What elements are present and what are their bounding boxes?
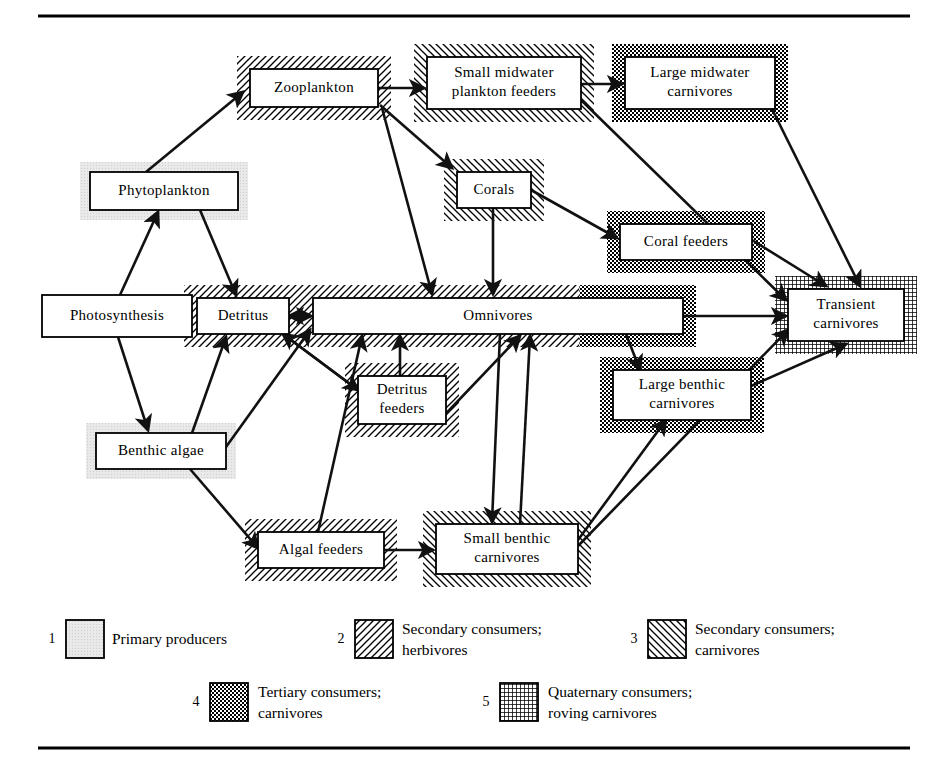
node-transient[interactable]: Transientcarnivores — [788, 289, 904, 341]
node-label-small_midwater-line1: Small midwater — [454, 64, 554, 80]
legend-item-primary: 1Primary producers — [49, 620, 227, 658]
edge-benthic_algae-to-algal_feeders — [190, 469, 258, 548]
edge-phytoplankton-to-detritus — [200, 210, 236, 295]
node-label-detritus_feeders-line1: Detritus — [377, 381, 428, 397]
legend: 1Primary producers2Secondary consumers;h… — [49, 620, 835, 721]
node-zooplankton[interactable]: Zooplankton — [250, 69, 378, 107]
legend-number-2: 2 — [338, 631, 345, 646]
edge-benthic_algae-to-detritus — [192, 337, 226, 433]
legend-label-tertiary-line2: carnivores — [258, 704, 323, 721]
node-label-phytoplankton: Phytoplankton — [118, 182, 210, 198]
node-label-benthic_algae: Benthic algae — [118, 442, 204, 458]
node-omnivores[interactable]: Omnivores — [313, 298, 683, 334]
legend-label-primary: Primary producers — [112, 630, 227, 647]
legend-label-secondary_h-line2: herbivores — [402, 641, 467, 658]
node-large_midwater[interactable]: Large midwatercarnivores — [625, 57, 775, 109]
legend-label-quaternary-line1: Quaternary consumers; — [548, 683, 692, 700]
figure-canvas: PhotosynthesisPhytoplanktonBenthic algae… — [0, 0, 942, 777]
node-label-transient-line1: Transient — [817, 296, 876, 312]
edge-photosynthesis-to-benthic_algae — [118, 337, 148, 430]
node-label-corals: Corals — [474, 181, 515, 197]
food-web-diagram: PhotosynthesisPhytoplanktonBenthic algae… — [0, 0, 942, 777]
node-label-small_benthic-line2: carnivores — [474, 549, 539, 565]
node-small_midwater[interactable]: Small midwaterplankton feeders — [427, 57, 581, 109]
edge-small_benthic-to-omnivores — [520, 336, 530, 524]
node-detritus[interactable]: Detritus — [197, 298, 289, 334]
legend-number-1: 1 — [49, 631, 56, 646]
node-small_benthic[interactable]: Small benthiccarnivores — [436, 524, 578, 574]
legend-label-quaternary-line2: roving carnivores — [548, 704, 657, 721]
legend-swatch-secondary_c — [648, 620, 686, 658]
legend-label-tertiary-line1: Tertiary consumers; — [258, 683, 381, 700]
node-label-omnivores: Omnivores — [463, 307, 532, 323]
node-label-transient-line2: carnivores — [813, 315, 878, 331]
node-corals[interactable]: Corals — [457, 172, 531, 208]
node-label-small_midwater-line2: plankton feeders — [452, 83, 556, 99]
node-label-photosynthesis: Photosynthesis — [70, 307, 164, 323]
legend-swatch-secondary_h — [355, 620, 393, 658]
node-label-detritus: Detritus — [218, 307, 269, 323]
node-benthic_algae[interactable]: Benthic algae — [96, 433, 226, 469]
legend-label-secondary_c-line1: Secondary consumers; — [695, 620, 835, 637]
legend-number-5: 5 — [483, 694, 490, 709]
node-algal_feeders[interactable]: Algal feeders — [258, 532, 384, 568]
edge-small_benthic-to-large_benthic — [578, 420, 666, 540]
edge-phytoplankton-to-zooplankton — [146, 92, 243, 172]
node-label-coral_feeders: Coral feeders — [644, 233, 728, 249]
legend-number-3: 3 — [631, 631, 638, 646]
node-label-large_midwater-line1: Large midwater — [650, 64, 749, 80]
legend-item-secondary_h: 2Secondary consumers;herbivores — [338, 620, 542, 658]
node-label-large_benthic-line2: carnivores — [649, 395, 714, 411]
legend-label-secondary_h-line1: Secondary consumers; — [402, 620, 542, 637]
edge-photosynthesis-to-phytoplankton — [120, 212, 158, 295]
legend-label-secondary_c-line2: carnivores — [695, 641, 760, 658]
node-label-detritus_feeders-line2: feeders — [379, 400, 424, 416]
legend-swatch-quaternary — [500, 683, 538, 721]
node-label-large_midwater-line2: carnivores — [667, 83, 732, 99]
legend-swatch-tertiary — [210, 683, 248, 721]
edge-benthic_algae-to-omnivores — [226, 330, 310, 447]
node-label-algal_feeders: Algal feeders — [279, 541, 363, 557]
node-coral_feeders[interactable]: Coral feeders — [620, 224, 752, 260]
node-large_benthic[interactable]: Large benthiccarnivores — [613, 370, 751, 420]
legend-item-secondary_c: 3Secondary consumers;carnivores — [631, 620, 835, 658]
legend-item-quaternary: 5Quaternary consumers;roving carnivores — [483, 683, 693, 721]
node-photosynthesis[interactable]: Photosynthesis — [42, 295, 192, 337]
node-label-large_benthic-line1: Large benthic — [639, 376, 726, 392]
legend-item-tertiary: 4Tertiary consumers;carnivores — [193, 683, 382, 721]
edge-zooplankton-to-omnivores — [382, 108, 432, 294]
node-label-zooplankton: Zooplankton — [274, 79, 354, 95]
node-detritus_feeders[interactable]: Detritusfeeders — [358, 376, 446, 424]
node-phytoplankton[interactable]: Phytoplankton — [90, 172, 238, 210]
legend-number-4: 4 — [193, 694, 200, 709]
node-label-small_benthic-line1: Small benthic — [464, 530, 551, 546]
legend-swatch-primary — [66, 620, 104, 658]
